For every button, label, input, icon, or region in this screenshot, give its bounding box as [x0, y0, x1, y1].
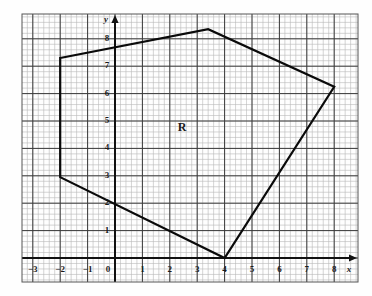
y-tick-label-2: 2 [91, 197, 123, 207]
y-tick-label-7: 7 [91, 60, 123, 70]
y-tick-label-6: 6 [91, 88, 123, 98]
region-label-R: R [166, 122, 198, 132]
y-axis-label: y [90, 14, 122, 24]
x-tick-label-0: 0 [92, 264, 124, 274]
y-tick-label-4: 4 [91, 142, 123, 152]
coordinate-plot [0, 0, 372, 296]
y-tick-label-8: 8 [91, 33, 123, 43]
y-tick-label-1: 1 [91, 225, 123, 235]
y-tick-label-3: 3 [91, 170, 123, 180]
x-axis-label: x [333, 264, 365, 274]
y-tick-label-5: 5 [91, 115, 123, 125]
graph-figure: −3−2−101234567812345678xyR [0, 0, 372, 296]
